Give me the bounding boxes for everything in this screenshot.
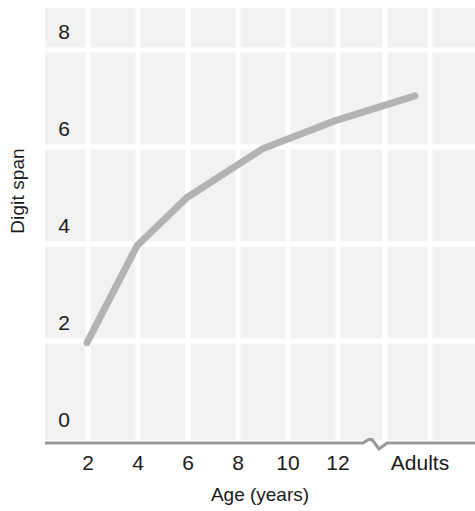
y-tick-label-2: 2 xyxy=(44,311,70,335)
y-tick-label-0: 0 xyxy=(44,408,70,432)
x-tick-label-8: 8 xyxy=(218,451,258,475)
x-tick-label-4: 4 xyxy=(118,451,158,475)
x-tick-label-2: 2 xyxy=(68,451,108,475)
y-tick-label-8: 8 xyxy=(44,20,70,44)
y-tick-label-6: 6 xyxy=(44,117,70,141)
x-tick-label-10: 10 xyxy=(266,451,310,475)
plot-area xyxy=(45,8,475,440)
y-axis-title: Digit span xyxy=(7,101,29,281)
x-axis-title: Age (years) xyxy=(45,484,475,506)
x-tick-label-12: 12 xyxy=(316,451,360,475)
y-tick-label-4: 4 xyxy=(44,214,70,238)
x-tick-label-adults: Adults xyxy=(372,451,468,475)
chart-figure: Digit span 8 6 4 2 0 2 4 xyxy=(0,0,475,511)
x-axis-line xyxy=(45,438,475,452)
x-tick-label-6: 6 xyxy=(168,451,208,475)
data-series-line xyxy=(45,8,475,440)
